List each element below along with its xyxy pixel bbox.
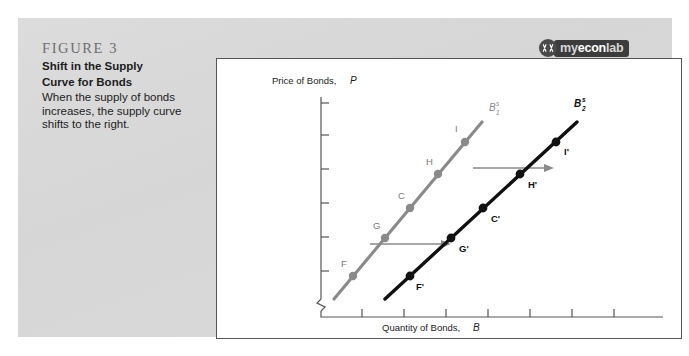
chart-container: Price of Bonds, P Quantity of Bonds, B	[216, 58, 682, 339]
shift-arrow-upper	[473, 164, 554, 172]
point-label-c: C	[398, 190, 405, 201]
point-label-f: F	[341, 258, 347, 269]
wordmark-my: my	[560, 40, 578, 57]
figure-title-line2: Curve for Bonds	[42, 76, 202, 90]
wordmark-lab: lab	[606, 40, 623, 57]
myeconlab-logo[interactable]: myeconlab	[539, 39, 629, 57]
figure-caption: FIGURE 3 Shift in the Supply Curve for B…	[42, 40, 202, 132]
point-label-c-prime: C'	[491, 213, 500, 224]
figure-panel: FIGURE 3 Shift in the Supply Curve for B…	[18, 18, 672, 337]
chart-axes	[317, 97, 663, 317]
point-label-i-prime: I'	[564, 146, 569, 157]
myeconlab-wordmark: myeconlab	[554, 40, 629, 57]
supply-curve-chart: Price of Bonds, P Quantity of Bonds, B	[217, 59, 681, 338]
point-label-h: H	[426, 156, 433, 167]
point-label-g-prime: G'	[459, 243, 469, 254]
point-label-h-prime: H'	[528, 179, 537, 190]
y-axis-label-symbol: P	[350, 75, 357, 86]
curve-2-label-sup: s	[582, 96, 586, 103]
wordmark-econ: econ	[578, 40, 606, 57]
supply-curve-2[interactable]: F' G' C' H' I' B s 2	[385, 96, 586, 299]
figure-number: FIGURE 3	[42, 40, 202, 57]
x-axis-label-text: Quantity of Bonds,	[382, 322, 460, 333]
x-axis-label-symbol: B	[473, 322, 480, 333]
figure-title-line1: Shift in the Supply	[42, 60, 202, 74]
y-axis-label-text: Price of Bonds,	[272, 75, 336, 86]
curve-1-label-base: B	[489, 102, 496, 113]
point-label-f-prime: F'	[416, 281, 424, 292]
curve-1-label-sup: s	[496, 100, 500, 107]
figure-description: When the supply of bonds increases, the …	[42, 91, 202, 132]
curve-2-label-base: B	[574, 98, 581, 109]
curve-2-label-sub: 2	[581, 105, 586, 112]
curve-1-label-sub: 1	[496, 109, 500, 116]
myeconlab-mark-icon	[539, 39, 557, 57]
point-label-g: G	[373, 220, 380, 231]
point-label-i: I	[455, 123, 458, 134]
